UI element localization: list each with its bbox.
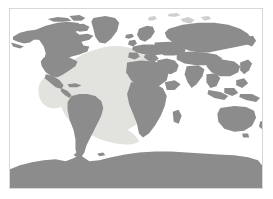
world-map-svg	[10, 9, 262, 188]
land-tasmania	[242, 134, 249, 138]
figure-container: Landmass Distribution range	[0, 0, 273, 199]
map-frame: Landmass Distribution range	[9, 8, 263, 189]
